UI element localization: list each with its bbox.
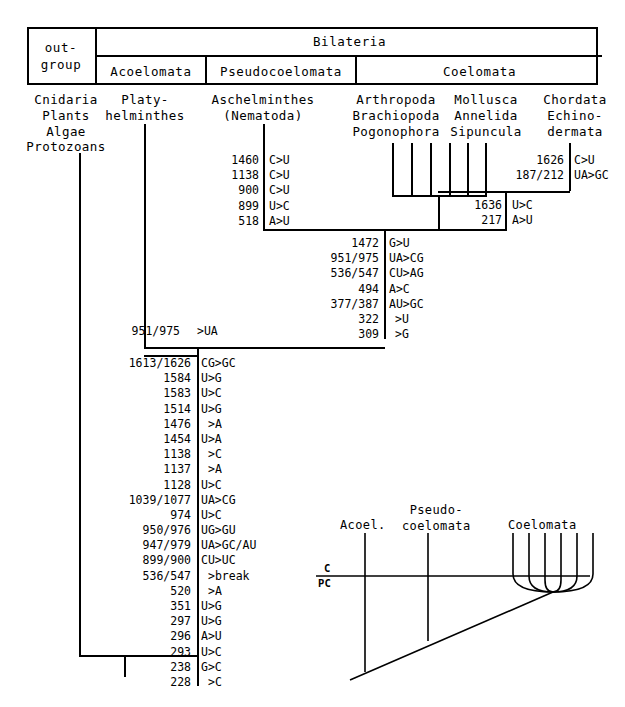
bilateria-label: Bilateria: [313, 34, 386, 49]
pseudocoelomata-label: Pseudocoelomata: [220, 64, 342, 79]
mutation-change: U>G: [196, 371, 222, 386]
mutation-change: U>C: [507, 198, 533, 213]
mutation-row: 1138 >C: [110, 447, 256, 462]
mutation-change: C>U: [264, 183, 290, 198]
mutation-row: 518 A>U: [195, 214, 290, 229]
era-label-cambrian: C: [324, 562, 331, 574]
mutation-position: 187/212: [497, 168, 569, 183]
mutation-row: 951/975 >UA: [110, 324, 218, 339]
mutation-position: 293: [110, 645, 196, 660]
mutation-position: 974: [110, 508, 196, 523]
mutation-change: >C: [196, 447, 222, 462]
inset-branch-coelomate-1: [513, 533, 553, 592]
mutation-row: 377/387 AU>GC: [300, 297, 424, 312]
mutation-row: 322 >U: [300, 312, 424, 327]
mutation-row: 1613/1626 CG>GC: [110, 356, 256, 371]
classification-table: out- group Bilateria Acoelomata Pseudoco…: [27, 27, 598, 85]
mutation-position: 899/900: [110, 553, 196, 568]
mutation-row: 899 U>C: [195, 199, 290, 214]
mutation-row: 1636 U>C: [440, 198, 533, 213]
mutation-block-platyhelminthes: 951/975 >UA: [110, 324, 218, 339]
bracket-bilateria-right: [384, 229, 506, 231]
mutation-position: 947/979: [110, 538, 196, 553]
mutation-position: 520: [110, 584, 196, 599]
mutation-position: 536/547: [300, 266, 384, 281]
branch-line-arthropoda: [392, 143, 394, 195]
inset-tree-svg: [340, 500, 625, 707]
mutation-row: 228 >C: [110, 675, 256, 690]
mutation-block-coelomata: 1636 U>C 217 A>U: [440, 198, 533, 228]
mutation-row: 238 G>C: [110, 660, 256, 675]
inset-divergence-tree: Acoel. Pseudo- coelomata Coelomata C PC: [340, 500, 625, 707]
mutation-row: 900 C>U: [195, 183, 290, 198]
mutation-change: AU>GC: [384, 297, 424, 312]
table-cell-acoelomata: Acoelomata: [97, 57, 207, 85]
mutation-change: CU>AG: [384, 266, 424, 281]
branch-line-pogonophora: [430, 143, 432, 195]
table-cell-pseudocoelomata: Pseudocoelomata: [207, 57, 357, 85]
mutation-change: A>U: [507, 213, 533, 228]
mutation-row: 296 A>U: [110, 629, 256, 644]
mutation-change: U>G: [196, 402, 222, 417]
mutation-change: UA>GC/AU: [196, 538, 256, 553]
stem-root-left: [144, 347, 146, 349]
mutation-change: >A: [196, 417, 222, 432]
mutation-row: 1583 U>C: [110, 386, 256, 401]
mutation-change: UA>CG: [384, 251, 424, 266]
mutation-position: 950/976: [110, 523, 196, 538]
mutation-change: C>U: [264, 153, 290, 168]
mutation-position: 951/975: [300, 251, 384, 266]
mutation-position: 322: [300, 312, 384, 327]
mutation-row: 217 A>U: [440, 213, 533, 228]
mutation-row: 293 U>C: [110, 645, 256, 660]
mutation-change: U>C: [196, 508, 222, 523]
mutation-change: C>U: [569, 153, 595, 168]
branch-line-platyhelminthes: [144, 124, 146, 348]
mutation-row: 899/900 CU>UC: [110, 553, 256, 568]
mutation-change: U>C: [196, 478, 222, 493]
mutation-position: 518: [195, 214, 264, 229]
mutation-row: 951/975 UA>CG: [300, 251, 424, 266]
figure-canvas: out- group Bilateria Acoelomata Pseudoco…: [0, 0, 625, 707]
acoelomata-label: Acoelomata: [110, 64, 191, 79]
mutation-row: 1460 C>U: [195, 153, 290, 168]
mutation-row: 297 U>G: [110, 614, 256, 629]
mutation-change: >U: [384, 312, 409, 327]
inset-branch-coelomate-5: [553, 533, 577, 592]
mutation-change: C>U: [264, 168, 290, 183]
mutation-row: 520 >A: [110, 584, 256, 599]
mutation-row: 187/212 UA>GC: [497, 168, 609, 183]
stem-coelomata-to-bilateria: [505, 229, 507, 231]
branch-line-mollusca: [449, 143, 451, 195]
mutation-position: 1636: [440, 198, 507, 213]
mutation-position: 1583: [110, 386, 196, 401]
mutation-change: CG>GC: [196, 356, 236, 371]
mutation-position: 1128: [110, 478, 196, 493]
mutation-position: 297: [110, 614, 196, 629]
mutation-change: A>C: [384, 282, 410, 297]
mutation-change: CU>UC: [196, 553, 236, 568]
mutation-change: U>G: [196, 614, 222, 629]
table-cell-coelomata: Coelomata: [357, 57, 602, 85]
mutation-row: 536/547 CU>AG: [300, 266, 424, 281]
inset-branch-coelomate-2: [529, 533, 553, 592]
mutation-row: 974 U>C: [110, 508, 256, 523]
mutation-change: A>U: [196, 629, 222, 644]
mutation-position: 899: [195, 199, 264, 214]
mutation-row: 309 >G: [300, 327, 424, 342]
mutation-position: 1584: [110, 371, 196, 386]
inset-root-diagonal: [350, 592, 553, 680]
mutation-change: U>C: [264, 199, 290, 214]
taxa-coelomata-group-1: Arthropoda Brachiopoda Pogonophora: [350, 92, 442, 139]
mutation-row: 1626 C>U: [497, 153, 609, 168]
mutation-change: U>C: [196, 645, 222, 660]
mutation-position: 309: [300, 327, 384, 342]
mutation-row: 1472 G>U: [300, 236, 424, 251]
coelomata-label: Coelomata: [443, 64, 516, 79]
mutation-change: >break: [196, 569, 250, 584]
branch-line-annelida: [467, 143, 469, 195]
taxa-coelomata-group-2: Mollusca Annelida Sipuncula: [442, 92, 530, 139]
inset-branch-coelomate-6: [553, 533, 593, 592]
mutation-position: 1472: [300, 236, 384, 251]
table-cell-bilateria: Bilateria: [97, 27, 602, 57]
